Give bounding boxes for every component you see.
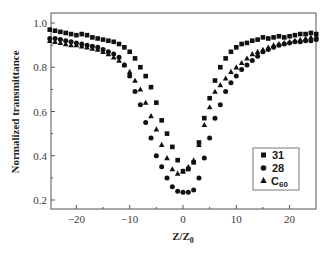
point-square [165, 131, 170, 136]
legend: 31 28 C60 [253, 148, 299, 190]
point-triangle [260, 47, 266, 52]
legend-label-c60-main: C [271, 175, 279, 187]
legend-label-c60-sub: 60 [279, 180, 288, 189]
point-square [223, 56, 228, 61]
point-square [138, 65, 143, 70]
point-circle [255, 54, 260, 59]
point-square [133, 56, 138, 61]
point-circle [223, 89, 228, 94]
point-triangle [170, 166, 176, 171]
legend-label-31: 31 [272, 149, 284, 161]
point-triangle [138, 86, 144, 91]
point-square [47, 27, 52, 32]
point-square [111, 40, 116, 45]
point-square [85, 33, 90, 38]
point-circle [149, 136, 154, 141]
point-square [58, 30, 63, 35]
point-circle [207, 136, 212, 141]
point-circle [138, 102, 143, 107]
point-square [207, 96, 212, 101]
point-square [74, 33, 79, 38]
point-square [69, 32, 74, 37]
point-square [154, 100, 159, 105]
point-triangle [186, 164, 192, 169]
point-triangle [249, 51, 255, 56]
point-triangle [154, 126, 160, 131]
x-axis-title: Z/Z0 [172, 230, 194, 245]
point-square [106, 38, 111, 43]
point-circle [165, 175, 170, 180]
point-square [143, 74, 148, 79]
point-triangle [143, 100, 149, 105]
legend-square-icon [261, 153, 266, 158]
point-square [63, 31, 68, 36]
point-square [255, 37, 260, 42]
point-circle [181, 190, 186, 195]
point-triangle [202, 122, 208, 127]
x-axis-title-subscript: 0 [190, 236, 194, 245]
point-square [213, 78, 218, 83]
point-square [90, 35, 95, 40]
point-square [95, 36, 100, 41]
point-square [122, 45, 127, 50]
point-square [127, 49, 132, 54]
x-axis-ticks: −20−1001020 [68, 205, 296, 225]
point-triangle [175, 171, 181, 176]
point-triangle [271, 42, 277, 47]
point-circle [175, 189, 180, 194]
point-triangle [127, 69, 133, 74]
point-circle [218, 102, 223, 107]
point-square [239, 42, 244, 47]
point-triangle [164, 155, 170, 160]
y-tick-label: 0.2 [33, 194, 47, 206]
point-square [266, 36, 271, 41]
point-square [261, 35, 266, 40]
point-square [245, 41, 250, 46]
x-tick-label: 0 [180, 213, 186, 225]
x-tick-label: −10 [121, 213, 139, 225]
point-circle [133, 89, 138, 94]
point-triangle [255, 49, 261, 54]
point-triangle [132, 78, 138, 83]
x-axis-title-main: Z/Z [172, 230, 190, 242]
point-square [159, 118, 164, 123]
point-triangle [223, 75, 229, 80]
point-square [218, 65, 223, 70]
point-circle [191, 188, 196, 193]
point-circle [250, 58, 255, 63]
point-square [234, 45, 239, 50]
y-tick-label: 0.8 [33, 61, 47, 73]
point-circle [244, 63, 249, 68]
point-triangle [148, 113, 154, 118]
point-triangle [212, 89, 218, 94]
point-square [202, 116, 207, 121]
point-triangle [228, 69, 234, 74]
point-triangle [159, 142, 165, 147]
y-tick-label: 0.6 [33, 106, 47, 118]
point-circle [196, 175, 201, 180]
point-triangle [234, 64, 240, 69]
point-square [298, 32, 303, 37]
point-triangle [244, 56, 250, 61]
legend-label-28: 28 [272, 162, 284, 174]
point-circle [202, 155, 207, 160]
point-circle [212, 116, 217, 121]
point-triangle [207, 104, 213, 109]
point-circle [154, 153, 159, 158]
point-circle [170, 184, 175, 189]
chart: 0.20.40.60.81.0 −20−1001020 Normalized t… [0, 0, 329, 254]
x-tick-label: 20 [284, 213, 296, 225]
y-tick-label: 0.4 [33, 150, 47, 162]
x-tick-label: −20 [68, 213, 86, 225]
point-square [175, 158, 180, 163]
y-axis-ticks: 0.20.40.60.81.0 [33, 17, 55, 206]
point-triangle [265, 44, 271, 49]
point-circle [239, 67, 244, 72]
point-square [271, 35, 276, 40]
point-square [79, 32, 84, 37]
y-tick-label: 1.0 [33, 17, 47, 29]
point-circle [228, 80, 233, 85]
point-square [293, 33, 298, 38]
point-circle [234, 74, 239, 79]
legend-circle-icon [261, 165, 267, 171]
